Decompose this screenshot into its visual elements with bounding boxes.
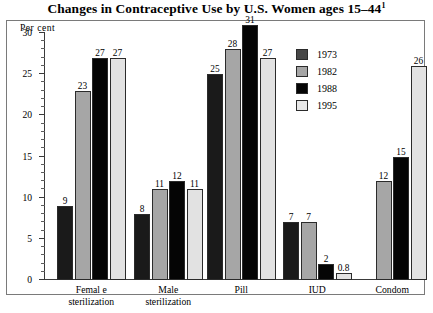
x-axis-group-label: IUD: [309, 284, 326, 296]
bar: 28: [225, 49, 241, 280]
bar-value-label: 7: [306, 212, 311, 222]
bar-group: 8111211Malesterilization: [134, 33, 203, 280]
y-tick-label: 25: [22, 68, 32, 79]
y-tick-minor: [41, 40, 45, 41]
y-tick-minor: [41, 57, 45, 58]
bar-value-label: 27: [263, 48, 272, 58]
x-axis-group-label: Femal esterilization: [68, 284, 114, 307]
bar: 25: [207, 74, 223, 280]
x-axis-group-label-line: Condom: [376, 284, 409, 295]
y-tick-minor: [41, 90, 45, 91]
legend-label: 1982: [317, 66, 337, 77]
bar-value-label: 12: [172, 171, 181, 181]
bar-value-label: 0.8: [338, 263, 350, 273]
y-tick-minor: [41, 254, 45, 255]
x-axis-group-label-line: sterilization: [68, 296, 114, 307]
legend-swatch: [296, 49, 308, 60]
legend-label: 1973: [317, 49, 337, 60]
y-tick-minor: [41, 271, 45, 272]
y-axis-line: [44, 33, 45, 280]
bar: 23: [75, 91, 91, 280]
x-axis-group-label-line: Pill: [235, 284, 248, 295]
y-tick-major: 20: [39, 114, 45, 115]
bar-value-label: 11: [155, 179, 164, 189]
y-tick-minor: [41, 147, 45, 148]
bar-value-label: 12: [379, 171, 388, 181]
bar: 15: [393, 157, 409, 281]
bar-value-label: 23: [78, 81, 87, 91]
y-tick-label: 30: [22, 27, 32, 38]
y-tick-minor: [41, 180, 45, 181]
y-tick-major: 5: [39, 238, 45, 239]
x-axis-group-label: Pill: [235, 284, 248, 296]
bar-value-label: 2: [324, 254, 329, 264]
y-tick-minor: [41, 188, 45, 189]
legend-swatch: [296, 100, 308, 111]
y-tick-label: 5: [27, 232, 32, 243]
y-tick-minor: [41, 213, 45, 214]
bar-value-label: 25: [210, 64, 219, 74]
legend-label: 1995: [317, 100, 337, 111]
bar: 7: [283, 222, 299, 280]
chart-title: Changes in Contraceptive Use by U.S. Wom…: [0, 1, 433, 17]
chart-title-footnote-marker: 1: [381, 1, 385, 10]
y-tick-major: 10: [39, 197, 45, 198]
x-axis-group-label: Malesterilization: [145, 284, 191, 307]
bar-value-label: 26: [414, 56, 423, 66]
legend-swatch: [296, 66, 308, 77]
y-tick-minor: [41, 131, 45, 132]
y-tick-major: 15: [39, 156, 45, 157]
bar-value-label: 31: [245, 15, 254, 25]
y-tick-label: 10: [22, 191, 32, 202]
y-tick-minor: [41, 246, 45, 247]
bar: 2: [318, 264, 334, 280]
legend-item: 1973: [296, 46, 337, 63]
bar: 12: [376, 181, 392, 280]
x-axis-group-label-line: Male: [158, 284, 178, 295]
legend-item: 1995: [296, 97, 337, 114]
bar: 9: [57, 206, 73, 280]
bar-value-label: 15: [396, 147, 405, 157]
bar-value-label: 8: [140, 204, 145, 214]
y-tick-minor: [41, 172, 45, 173]
bar: 31: [242, 25, 258, 280]
y-tick-major: 0: [39, 279, 45, 280]
y-tick-minor: [41, 230, 45, 231]
bar: 27: [110, 58, 126, 280]
bar: 27: [260, 58, 276, 280]
y-tick-label: 20: [22, 109, 32, 120]
legend-label: 1988: [317, 83, 337, 94]
y-tick-minor: [41, 48, 45, 49]
y-tick-major: 25: [39, 73, 45, 74]
y-tick-minor: [41, 106, 45, 107]
y-tick-label: 0: [27, 274, 32, 285]
bar-value-label: 7: [289, 212, 294, 222]
bar-group: 25283127Pill: [207, 33, 276, 280]
bar: 12: [169, 181, 185, 280]
y-tick-major: 30: [39, 32, 45, 33]
bar-value-label: 27: [113, 48, 122, 58]
legend-item: 1982: [296, 63, 337, 80]
y-tick-minor: [41, 65, 45, 66]
bar-group: 9232727Femal esterilization: [57, 33, 126, 280]
bar: 11: [152, 189, 168, 280]
y-tick-minor: [41, 263, 45, 264]
bar-group: 121526Condom: [358, 33, 427, 280]
bar: 8: [134, 214, 150, 280]
y-tick-minor: [41, 164, 45, 165]
y-tick-minor: [41, 205, 45, 206]
bar: 11: [187, 189, 203, 280]
bar: 27: [92, 58, 108, 280]
bar-value-label: 9: [63, 196, 68, 206]
legend-swatch: [296, 83, 308, 94]
bar-value-label: 11: [190, 179, 199, 189]
contraceptive-use-bar-chart: Changes in Contraceptive Use by U.S. Wom…: [0, 0, 433, 313]
y-tick-minor: [41, 221, 45, 222]
y-tick-minor: [41, 139, 45, 140]
y-tick-label: 15: [22, 150, 32, 161]
bar-value-label: 28: [228, 39, 237, 49]
x-axis-group-label-line: Femal e: [76, 284, 107, 295]
x-axis-group-label-line: sterilization: [145, 296, 191, 307]
y-tick-minor: [41, 98, 45, 99]
x-axis-group-label: Condom: [376, 284, 409, 296]
